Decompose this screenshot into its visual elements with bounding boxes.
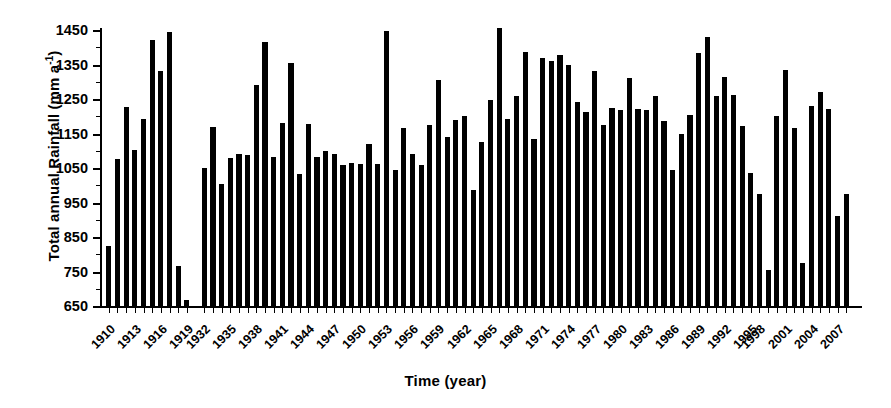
y-tick-mark-minor <box>96 289 101 290</box>
x-tick-mark <box>768 308 769 313</box>
x-tick-mark <box>508 308 509 313</box>
x-tick-mark <box>560 308 561 313</box>
x-tick-mark <box>386 308 387 313</box>
x-tick-mark <box>360 308 361 313</box>
x-tick-mark <box>412 308 413 313</box>
x-tick-mark <box>447 308 448 313</box>
x-tick-mark <box>759 308 760 313</box>
x-tick-mark <box>664 308 665 313</box>
x-tick-mark <box>352 308 353 313</box>
x-tick-mark <box>152 308 153 313</box>
x-tick-mark <box>499 308 500 313</box>
x-tick-mark <box>638 308 639 313</box>
x-tick-mark <box>343 308 344 313</box>
x-tick-mark <box>629 308 630 313</box>
x-tick-mark <box>438 308 439 313</box>
x-tick-mark <box>421 308 422 313</box>
x-tick-mark <box>170 308 171 313</box>
x-tick-mark <box>681 308 682 313</box>
x-tick-mark <box>395 308 396 313</box>
x-tick-mark <box>178 308 179 313</box>
x-tick-mark <box>326 308 327 313</box>
x-tick-mark <box>673 308 674 313</box>
x-tick-mark <box>603 308 604 313</box>
x-tick-mark <box>690 308 691 313</box>
x-tick-mark <box>803 308 804 313</box>
x-tick-mark <box>291 308 292 313</box>
x-tick-mark <box>846 308 847 313</box>
x-tick-mark <box>109 308 110 313</box>
y-tick-mark <box>93 203 101 205</box>
x-tick-mark <box>655 308 656 313</box>
x-tick-mark <box>707 308 708 313</box>
x-axis-title: Time (year) <box>0 372 891 389</box>
x-tick-mark <box>274 308 275 313</box>
x-tick-mark <box>126 308 127 313</box>
x-tick-mark <box>716 308 717 313</box>
x-tick-mark <box>551 308 552 313</box>
x-tick-mark <box>543 308 544 313</box>
x-tick-mark <box>525 308 526 313</box>
x-tick-mark <box>465 308 466 313</box>
x-tick-mark <box>213 308 214 313</box>
y-tick-mark <box>93 237 101 239</box>
x-tick-mark <box>144 308 145 313</box>
x-tick-mark <box>517 308 518 313</box>
x-tick-mark <box>794 308 795 313</box>
x-tick-mark <box>742 308 743 313</box>
y-tick-mark <box>93 65 101 67</box>
x-tick-mark <box>230 308 231 313</box>
x-tick-mark <box>482 308 483 313</box>
x-tick-mark <box>534 308 535 313</box>
x-tick-mark <box>317 308 318 313</box>
y-tick-mark <box>93 168 101 170</box>
rainfall-bar-chart: Total annual Rainfall (mm a-1) 650750850… <box>0 0 891 408</box>
x-tick-mark <box>256 308 257 313</box>
x-tick-mark <box>577 308 578 313</box>
x-tick-mark <box>334 308 335 313</box>
x-tick-mark <box>308 308 309 313</box>
y-tick-mark <box>93 134 101 136</box>
x-tick-mark <box>473 308 474 313</box>
x-axis-tick-label-layer: 1910191319161919193219351938194119441947… <box>0 0 891 408</box>
y-tick-mark-minor <box>96 220 101 221</box>
y-tick-mark <box>93 272 101 274</box>
x-tick-mark <box>204 308 205 313</box>
x-tick-mark <box>838 308 839 313</box>
x-tick-mark <box>404 308 405 313</box>
y-tick-mark-minor <box>96 185 101 186</box>
x-tick-mark <box>647 308 648 313</box>
x-tick-mark <box>248 308 249 313</box>
x-tick-mark <box>282 308 283 313</box>
x-tick-mark <box>430 308 431 313</box>
y-tick-mark-minor <box>96 254 101 255</box>
x-tick-mark <box>187 308 188 313</box>
x-tick-mark <box>456 308 457 313</box>
x-tick-mark <box>378 308 379 313</box>
x-tick-mark <box>569 308 570 313</box>
x-tick-mark <box>751 308 752 313</box>
x-tick-mark <box>300 308 301 313</box>
x-tick-mark <box>135 308 136 313</box>
y-tick-mark-minor <box>96 47 101 48</box>
y-tick-mark-minor <box>96 116 101 117</box>
y-tick-mark <box>93 99 101 101</box>
x-tick-mark <box>612 308 613 313</box>
x-tick-mark <box>820 308 821 313</box>
x-tick-mark <box>733 308 734 313</box>
x-tick-mark <box>222 308 223 313</box>
x-tick-mark <box>161 308 162 313</box>
x-tick-mark <box>812 308 813 313</box>
x-tick-mark <box>265 308 266 313</box>
x-tick-mark <box>491 308 492 313</box>
x-tick-mark <box>595 308 596 313</box>
y-tick-mark-minor <box>96 151 101 152</box>
x-tick-mark <box>586 308 587 313</box>
x-tick-mark <box>829 308 830 313</box>
x-tick-mark <box>369 308 370 313</box>
x-tick-mark <box>725 308 726 313</box>
x-tick-mark <box>117 308 118 313</box>
x-tick-mark <box>786 308 787 313</box>
x-tick-mark <box>239 308 240 313</box>
x-tick-mark <box>699 308 700 313</box>
